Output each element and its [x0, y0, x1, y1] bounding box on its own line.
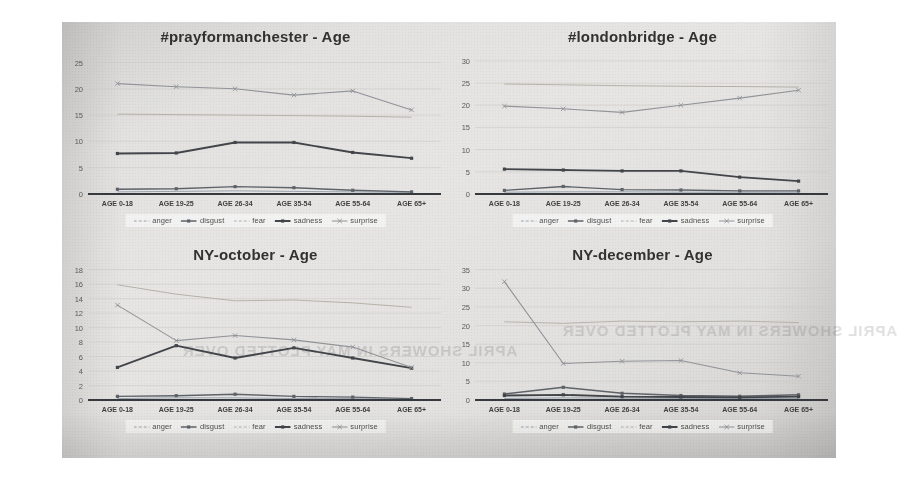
svg-text:5: 5 — [466, 377, 470, 386]
chart-legend: angerdisgustfearsadnesssurprise — [512, 214, 773, 227]
svg-text:AGE 65+: AGE 65+ — [397, 200, 426, 207]
legend-item-surprise: surprise — [331, 216, 377, 225]
legend-label: surprise — [350, 422, 377, 431]
svg-text:AGE 26-34: AGE 26-34 — [605, 200, 640, 207]
svg-text:12: 12 — [75, 309, 83, 318]
legend-swatch-icon — [233, 423, 249, 431]
legend-swatch-icon — [133, 217, 149, 225]
svg-text:20: 20 — [75, 85, 83, 94]
svg-text:5: 5 — [466, 168, 470, 177]
plot-area: 0510152025AGE 0-18AGE 19-25AGE 26-34AGE … — [62, 22, 449, 240]
svg-text:30: 30 — [462, 284, 470, 293]
chart-panel-prayformanchester: #prayformanchester - Age 0510152025AGE 0… — [62, 22, 449, 240]
svg-text:AGE 35-54: AGE 35-54 — [663, 200, 698, 207]
svg-text:35: 35 — [462, 266, 470, 275]
svg-text:6: 6 — [79, 353, 83, 362]
chart-legend: angerdisgustfearsadnesssurprise — [512, 420, 773, 433]
svg-text:AGE 26-34: AGE 26-34 — [218, 406, 253, 413]
svg-text:AGE 19-25: AGE 19-25 — [546, 200, 581, 207]
legend-swatch-icon — [718, 217, 734, 225]
legend-item-anger: anger — [133, 422, 172, 431]
legend-item-surprise: surprise — [718, 422, 764, 431]
svg-text:AGE 19-25: AGE 19-25 — [546, 406, 581, 413]
legend-swatch-icon — [662, 423, 678, 431]
legend-swatch-icon — [133, 423, 149, 431]
legend-label: disgust — [587, 422, 611, 431]
legend-item-disgust: disgust — [568, 216, 611, 225]
svg-text:8: 8 — [79, 338, 83, 347]
svg-text:25: 25 — [462, 303, 470, 312]
svg-text:20: 20 — [462, 322, 470, 331]
svg-text:AGE 55-64: AGE 55-64 — [335, 200, 370, 207]
svg-text:25: 25 — [75, 59, 83, 68]
legend-label: sadness — [294, 422, 323, 431]
svg-text:AGE 55-64: AGE 55-64 — [722, 406, 757, 413]
svg-text:0: 0 — [466, 396, 470, 405]
svg-text:14: 14 — [75, 295, 83, 304]
legend-label: anger — [539, 422, 559, 431]
legend-item-fear: fear — [620, 422, 652, 431]
legend-item-disgust: disgust — [568, 422, 611, 431]
legend-label: disgust — [200, 422, 224, 431]
svg-text:AGE 35-54: AGE 35-54 — [276, 200, 311, 207]
legend-item-anger: anger — [133, 216, 172, 225]
legend-swatch-icon — [568, 217, 584, 225]
legend-item-sadness: sadness — [662, 216, 710, 225]
legend-label: surprise — [350, 216, 377, 225]
legend-swatch-icon — [233, 217, 249, 225]
svg-text:AGE 0-18: AGE 0-18 — [489, 406, 520, 413]
svg-text:10: 10 — [462, 146, 470, 155]
svg-text:AGE 65+: AGE 65+ — [784, 200, 813, 207]
legend-label: sadness — [681, 216, 710, 225]
svg-text:AGE 26-34: AGE 26-34 — [605, 406, 640, 413]
legend-label: fear — [252, 422, 265, 431]
legend-item-anger: anger — [520, 422, 559, 431]
legend-swatch-icon — [620, 217, 636, 225]
svg-text:10: 10 — [75, 324, 83, 333]
legend-label: anger — [539, 216, 559, 225]
svg-text:AGE 19-25: AGE 19-25 — [159, 200, 194, 207]
legend-label: disgust — [587, 216, 611, 225]
svg-text:AGE 35-54: AGE 35-54 — [663, 406, 698, 413]
legend-label: anger — [152, 422, 172, 431]
svg-text:AGE 55-64: AGE 55-64 — [335, 406, 370, 413]
chart-panel-ny-october: NY-october - Age 024681012141618AGE 0-18… — [62, 240, 449, 458]
svg-text:10: 10 — [75, 137, 83, 146]
legend-swatch-icon — [181, 217, 197, 225]
legend-item-anger: anger — [520, 216, 559, 225]
svg-text:AGE 0-18: AGE 0-18 — [102, 200, 133, 207]
legend-label: sadness — [681, 422, 710, 431]
svg-text:15: 15 — [75, 111, 83, 120]
legend-label: anger — [152, 216, 172, 225]
legend-label: fear — [252, 216, 265, 225]
legend-swatch-icon — [568, 423, 584, 431]
svg-text:2: 2 — [79, 382, 83, 391]
legend-swatch-icon — [275, 423, 291, 431]
svg-text:20: 20 — [462, 101, 470, 110]
svg-text:AGE 0-18: AGE 0-18 — [489, 200, 520, 207]
svg-text:16: 16 — [75, 280, 83, 289]
svg-text:AGE 55-64: AGE 55-64 — [722, 200, 757, 207]
svg-text:0: 0 — [79, 396, 83, 405]
legend-label: disgust — [200, 216, 224, 225]
svg-text:15: 15 — [462, 340, 470, 349]
legend-item-sadness: sadness — [275, 422, 323, 431]
svg-text:AGE 26-34: AGE 26-34 — [218, 200, 253, 207]
legend-item-fear: fear — [233, 422, 265, 431]
legend-item-surprise: surprise — [718, 216, 764, 225]
svg-text:AGE 19-25: AGE 19-25 — [159, 406, 194, 413]
svg-text:15: 15 — [462, 123, 470, 132]
svg-text:30: 30 — [462, 57, 470, 66]
legend-swatch-icon — [520, 217, 536, 225]
legend-swatch-icon — [331, 423, 347, 431]
legend-swatch-icon — [331, 217, 347, 225]
legend-swatch-icon — [662, 217, 678, 225]
svg-text:4: 4 — [79, 367, 83, 376]
scanned-figure-page: APRIL SHOWERS IN MAY PLOTTED OVER APRIL … — [62, 22, 836, 458]
legend-label: fear — [639, 422, 652, 431]
legend-swatch-icon — [275, 217, 291, 225]
legend-item-sadness: sadness — [662, 422, 710, 431]
legend-label: surprise — [737, 216, 764, 225]
svg-text:0: 0 — [79, 190, 83, 199]
legend-item-fear: fear — [233, 216, 265, 225]
